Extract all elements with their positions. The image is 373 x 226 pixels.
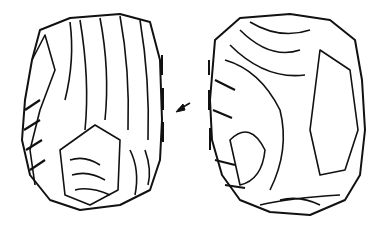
drawing (0, 0, 373, 226)
artifact-illustration (0, 0, 373, 226)
arrow-icon (176, 103, 190, 112)
right-view (209, 14, 365, 215)
left-view (22, 14, 163, 210)
